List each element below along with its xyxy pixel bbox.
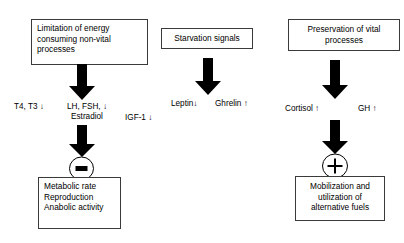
label-line: Estradiol (57, 112, 117, 122)
diagram-canvas: Limitation of energy consuming non-vital… (0, 0, 404, 243)
box-line: Preservation of vital (294, 24, 394, 35)
box-line: Limitation of energy (37, 23, 142, 34)
arrow-middle (194, 58, 222, 96)
arrow-right-upper (321, 60, 349, 100)
box-mobilization-outcomes: Mobilization and utilization of alternat… (295, 176, 385, 221)
arrow-left-lower (68, 125, 96, 158)
label-igf1: IGF-1 ↓ (125, 113, 152, 123)
box-line: Starvation signals (167, 33, 247, 44)
box-line: Reproduction (44, 192, 115, 203)
box-metabolic-outcomes: Metabolic rate Reproduction Anabolic act… (38, 177, 121, 229)
arrow-right-lower (321, 120, 349, 155)
box-line: processes (37, 44, 142, 55)
box-starvation-signals: Starvation signals (161, 28, 253, 49)
box-line: Anabolic activity (44, 202, 115, 213)
label-leptin: Leptin↓ (171, 99, 197, 109)
box-preservation-of-vital-processes: Preservation of vital processes (288, 19, 400, 51)
label-cortisol: Cortisol ↑ (285, 104, 319, 114)
label-growth-hormone: GH ↑ (358, 104, 377, 114)
box-line: Metabolic rate (44, 181, 115, 192)
box-line: utilization of (301, 192, 379, 203)
box-line: consuming non-vital (37, 34, 142, 45)
label-thyroid-hormones: T4, T3 ↓ (14, 102, 44, 112)
label-line: LH, FSH, ↓ (57, 102, 117, 112)
box-line: processes (294, 35, 394, 46)
box-line: alternative fuels (301, 202, 379, 213)
label-gonadotropins: LH, FSH, ↓ Estradiol (57, 102, 117, 122)
box-limitation-of-energy: Limitation of energy consuming non-vital… (31, 19, 148, 65)
label-ghrelin: Ghrelin ↑ (215, 99, 248, 109)
arrow-left-upper (68, 64, 96, 101)
box-line: Mobilization and (301, 181, 379, 192)
